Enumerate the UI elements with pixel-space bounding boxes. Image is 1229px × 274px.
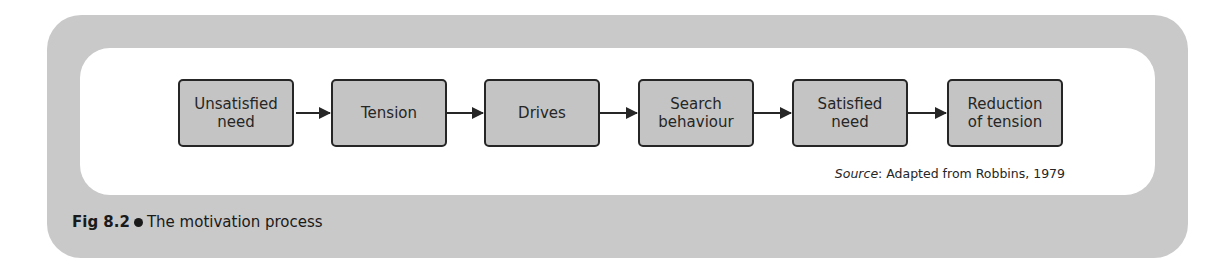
figure-caption: Fig 8.2The motivation process (72, 213, 323, 231)
figure-title: The motivation process (147, 213, 323, 231)
step-drives: Drives (484, 79, 600, 147)
source-text: : Adapted from Robbins, 1979 (878, 166, 1065, 181)
figure-number: Fig 8.2 (72, 213, 130, 231)
arrow-icon (296, 112, 330, 114)
step-tension: Tension (331, 79, 447, 147)
step-reduction-of-tension: Reduction of tension (947, 79, 1063, 147)
arrow-icon (908, 112, 946, 114)
bullet-icon (134, 218, 143, 227)
arrow-icon (600, 112, 637, 114)
arrow-icon (754, 112, 791, 114)
step-unsatisfied-need: Unsatisfied need (178, 79, 294, 147)
arrow-icon (447, 112, 483, 114)
source-note: Source: Adapted from Robbins, 1979 (835, 166, 1065, 181)
step-search-behaviour: Search behaviour (638, 79, 754, 147)
source-label: Source (835, 166, 878, 181)
step-satisfied-need: Satisfied need (792, 79, 908, 147)
